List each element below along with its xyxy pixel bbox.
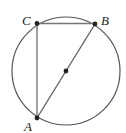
point-b bbox=[93, 22, 98, 27]
label-b: B bbox=[101, 13, 109, 28]
point-a bbox=[35, 116, 40, 121]
center-point bbox=[64, 69, 69, 74]
point-c bbox=[35, 21, 40, 26]
geometry-diagram: C B A bbox=[0, 0, 126, 133]
label-c: C bbox=[22, 13, 31, 28]
label-a: A bbox=[23, 119, 32, 133]
